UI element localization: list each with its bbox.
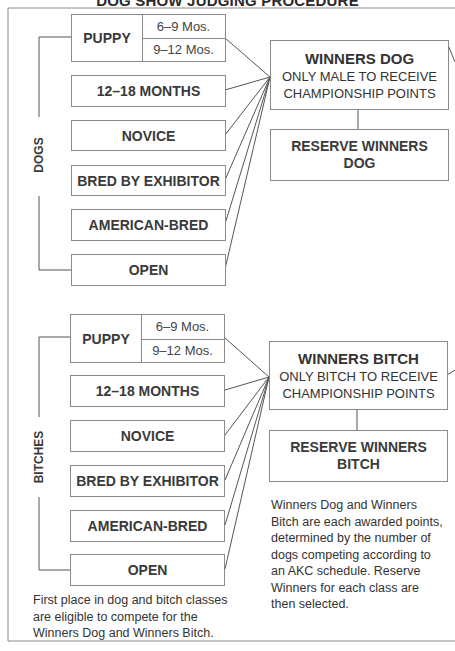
note-line: Winners Dog and Winners <box>271 497 455 514</box>
winners-bitch-desc-2: CHAMPIONSHIP POINTS <box>282 385 434 402</box>
dogs-class-bred-by-exhibitor: BRED BY EXHIBITOR <box>71 165 226 196</box>
dogs-puppy-class: PUPPY 6–9 Mos. 9–12 Mos. <box>71 14 226 62</box>
note-line: dogs competing according to <box>271 547 455 564</box>
note-line: Winners for each class are <box>271 580 455 597</box>
points-note: Winners Dog and Winners Bitch are each a… <box>271 497 455 613</box>
eligibility-note: First place in dog and bitch classes are… <box>33 592 263 642</box>
bitches-group-label: BITCHES <box>32 422 46 492</box>
puppy-label: PUPPY <box>71 315 142 362</box>
note-line: First place in dog and bitch classes <box>33 592 263 609</box>
reserve-bitch-line-2: BITCH <box>337 456 380 473</box>
winners-bitch-desc-1: ONLY BITCH TO RECEIVE <box>279 368 438 385</box>
reserve-dog-line-2: DOG <box>344 155 376 172</box>
reserve-bitch-line-1: RESERVE WINNERS <box>290 439 427 456</box>
dogs-class-open: OPEN <box>71 254 226 286</box>
dogs-class-novice: NOVICE <box>71 120 226 151</box>
note-line: Winners Dog and Winners Bitch. <box>33 625 263 642</box>
puppy-6-9-months: 6–9 Mos. <box>142 15 225 39</box>
puppy-6-9-months: 6–9 Mos. <box>141 315 224 340</box>
note-line: determined by the number of <box>271 530 455 547</box>
winners-dog-box: WINNERS DOG ONLY MALE TO RECEIVE CHAMPIO… <box>270 40 449 110</box>
note-line: an AKC schedule. Reserve <box>271 563 455 580</box>
dogs-class-12-18-months: 12–18 MONTHS <box>71 75 226 107</box>
bitches-class-american-bred: AMERICAN-BRED <box>70 510 225 542</box>
puppy-label: PUPPY <box>72 15 143 61</box>
puppy-9-12-months: 9–12 Mos. <box>141 339 224 363</box>
note-line: Bitch are each awarded points, <box>271 514 455 531</box>
reserve-dog-line-1: RESERVE WINNERS <box>291 138 428 155</box>
bitches-class-novice: NOVICE <box>70 420 225 452</box>
reserve-winners-dog-box: RESERVE WINNERS DOG <box>270 129 449 181</box>
puppy-9-12-months: 9–12 Mos. <box>142 38 225 61</box>
bitches-puppy-class: PUPPY 6–9 Mos. 9–12 Mos. <box>70 314 225 363</box>
winners-bitch-box: WINNERS BITCH ONLY BITCH TO RECEIVE CHAM… <box>269 341 448 410</box>
winners-dog-desc-2: CHAMPIONSHIP POINTS <box>283 85 435 102</box>
dogs-class-american-bred: AMERICAN-BRED <box>71 209 226 241</box>
note-line: are eligible to compete for the <box>33 609 263 626</box>
bitches-class-12-18-months: 12–18 MONTHS <box>70 375 225 407</box>
bitches-class-open: OPEN <box>70 554 225 586</box>
note-line: then selected. <box>271 596 455 613</box>
winners-bitch-title: WINNERS BITCH <box>298 349 419 368</box>
dogs-group-label: DOGS <box>32 130 46 180</box>
reserve-winners-bitch-box: RESERVE WINNERS BITCH <box>269 430 448 482</box>
bitches-class-bred-by-exhibitor: BRED BY EXHIBITOR <box>70 465 225 497</box>
winners-dog-desc-1: ONLY MALE TO RECEIVE <box>282 68 437 85</box>
winners-dog-title: WINNERS DOG <box>305 49 414 68</box>
